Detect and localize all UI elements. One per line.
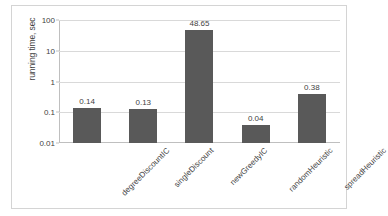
bar-slot: 0.38: [284, 20, 340, 143]
bar-value-label: 0.04: [248, 114, 264, 123]
bar-slot: 0.04: [228, 20, 284, 143]
bar[interactable]: [185, 30, 213, 143]
bar[interactable]: [298, 94, 326, 143]
bar[interactable]: [242, 125, 270, 144]
x-axis-category-label: newGreedyIC: [228, 146, 269, 187]
y-axis-title: running time, sec: [27, 0, 37, 99]
bar-slot: 0.13: [115, 20, 171, 143]
bar-value-label: 0.14: [79, 97, 95, 106]
x-axis-category-label: spreadHeuristic: [342, 146, 388, 192]
x-axis-category-label: degreeDiscountIC: [120, 146, 172, 198]
bar-slot: 0.14: [59, 20, 115, 143]
x-axis-category-label: randomHeuristic: [287, 146, 335, 194]
y-axis-tick-label: 0.01: [39, 139, 55, 148]
bar[interactable]: [73, 108, 101, 143]
x-axis-category-label: singleDiscount: [173, 146, 216, 189]
plot-area: 1001010.10.01 0.140.1348.650.040.38: [59, 20, 340, 143]
bar[interactable]: [129, 109, 157, 143]
bar-value-label: 48.65: [189, 19, 209, 28]
chart-frame: running time, sec 1001010.10.01 0.140.13…: [11, 5, 347, 209]
x-axis-category-labels: degreeDiscountICsingleDiscountnewGreedyI…: [59, 146, 340, 216]
y-axis-tick-label: 1: [51, 77, 55, 86]
y-axis-tick-label: 0.1: [44, 108, 55, 117]
bar-value-label: 0.38: [304, 83, 320, 92]
y-axis-tick-label: 100: [42, 16, 55, 25]
bar-value-label: 0.13: [135, 98, 151, 107]
bar-slot: 48.65: [171, 20, 227, 143]
y-axis-tick-label: 10: [46, 46, 55, 55]
